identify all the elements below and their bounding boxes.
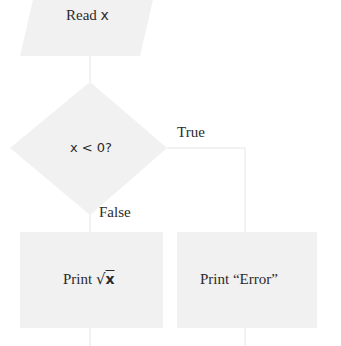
decision-node-label: x < 0? [70,141,112,154]
false-edge-label: False [99,205,131,220]
print-sqrt-variable: x [106,271,115,287]
input-label-variable: x [101,7,109,23]
print-sqrt-label: Print √x [63,272,115,287]
print-sqrt-prefix: Print [63,271,96,287]
flowchart-canvas [0,0,341,346]
print-error-label: Print “Error” [200,272,278,287]
true-edge-label: True [177,125,205,140]
connector-true-branch [167,148,245,232]
sqrt-symbol: √ [96,270,106,288]
input-label-prefix: Read [66,7,101,23]
input-node-label: Read x [66,8,109,23]
